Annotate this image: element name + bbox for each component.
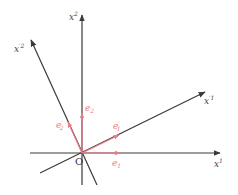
e-prime-1-vector xyxy=(82,135,119,153)
basis-transformation-diagram: x1 x2 x′1 x′2 e1 e2 e′1 e′2 O xyxy=(0,0,238,195)
e-prime-2-label: e′2 xyxy=(56,119,64,131)
origin-label: O xyxy=(75,156,83,167)
e1-label: e1 xyxy=(112,158,121,169)
x1-axis-label: x1 xyxy=(214,157,223,169)
x-prime-2-axis-label: x′2 xyxy=(14,42,24,54)
x-prime-1-axis-label: x′1 xyxy=(204,94,214,106)
e-prime-2-vector xyxy=(68,122,82,153)
x-prime-1-axis xyxy=(40,92,205,173)
e2-label: e2 xyxy=(85,103,94,114)
x2-axis-label: x2 xyxy=(69,10,78,22)
e-prime-1-label: e′1 xyxy=(113,120,121,132)
